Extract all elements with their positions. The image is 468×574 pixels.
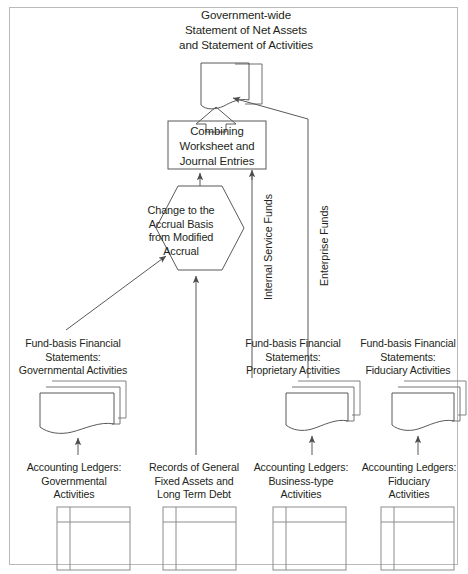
ledger-table-icon-governmental: [57, 507, 130, 570]
ledger-fiduciary-label: Accounting Ledgers: Fiduciary Activities: [354, 461, 464, 502]
enterprise-funds-label: Enterprise Funds: [318, 205, 330, 286]
fund-basis-proprietary-label: Fund-basis Financial Statements: Proprie…: [234, 337, 352, 378]
fund-basis-fiduciary-label: Fund-basis Financial Statements: Fiducia…: [352, 337, 464, 378]
stacked-documents-icon-fiduciary: [392, 381, 466, 430]
stacked-documents-icon-proprietary: [286, 381, 360, 430]
connector-enterprise-to-top-document: [233, 98, 308, 119]
flow-diagram: Government-wide Statement of Net Assets …: [0, 0, 468, 574]
ledger-business-type-label: Accounting Ledgers: Business-type Activi…: [246, 461, 356, 502]
ledger-governmental-label: Accounting Ledgers: Governmental Activit…: [12, 461, 136, 502]
ledger-table-icon-business-type: [273, 507, 346, 570]
combining-worksheet-label: Combining Worksheet and Journal Entries: [170, 124, 264, 168]
ledger-table-icon-fiduciary: [381, 507, 454, 570]
top-document-icon: [201, 63, 262, 109]
ledger-fixed-assets-label: Records of General Fixed Assets and Long…: [140, 461, 248, 502]
hexagon-label: Change to the Accrual Basis from Modifie…: [136, 204, 226, 259]
internal-service-funds-label: Internal Service Funds: [262, 194, 274, 300]
stacked-documents-icon-governmental: [40, 381, 126, 433]
page-title: Government-wide Statement of Net Assets …: [134, 8, 358, 52]
ledger-table-icon-fixed-assets: [163, 507, 236, 570]
connector-governmental-to-hexagon: [66, 256, 166, 330]
fund-basis-governmental-label: Fund-basis Financial Statements: Governm…: [10, 337, 136, 378]
